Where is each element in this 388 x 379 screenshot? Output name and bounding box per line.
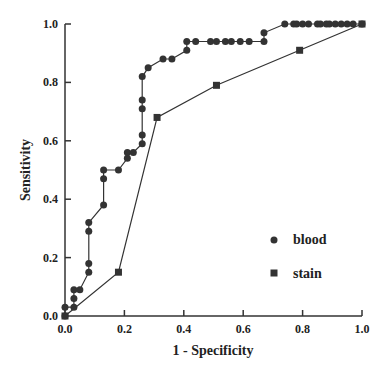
data-point-circle <box>139 73 146 80</box>
x-tick-label: 0.6 <box>236 322 251 336</box>
x-ticks: 0.00.20.40.60.81.0 <box>58 310 370 336</box>
data-point-circle <box>260 29 267 36</box>
data-point-circle <box>139 96 146 103</box>
y-tick-label: 1.0 <box>43 17 58 31</box>
y-tick-label: 0.0 <box>43 309 58 323</box>
y-tick-label: 0.8 <box>43 75 58 89</box>
data-point-circle <box>100 175 107 182</box>
legend-stain-label: stain <box>293 266 322 281</box>
x-tick-label: 1.0 <box>355 322 370 336</box>
data-point-circle <box>160 56 167 63</box>
roc-chart: 0.00.20.40.60.81.0 0.00.20.40.60.81.0 1 … <box>0 0 388 379</box>
y-tick-label: 0.6 <box>43 134 58 148</box>
data-point-square <box>213 82 220 89</box>
data-point-circle <box>305 21 312 28</box>
data-point-circle <box>115 167 122 174</box>
data-point-circle <box>183 38 190 45</box>
data-point-circle <box>85 260 92 267</box>
legend-stain-marker-icon <box>271 270 278 277</box>
data-point-circle <box>228 38 235 45</box>
data-point-circle <box>246 38 253 45</box>
data-point-square <box>62 313 69 320</box>
data-point-circle <box>183 47 190 54</box>
axes: 0.00.20.40.60.81.0 0.00.20.40.60.81.0 <box>43 17 370 336</box>
data-point-square <box>359 21 366 28</box>
data-point-circle <box>85 228 92 235</box>
x-tick-label: 0.2 <box>117 322 132 336</box>
data-point-circle <box>62 304 69 311</box>
x-tick-label: 0.0 <box>58 322 73 336</box>
data-point-square <box>154 114 161 121</box>
y-axis-title: Sensitivity <box>18 139 33 201</box>
data-point-circle <box>130 149 137 156</box>
data-point-square <box>115 269 122 276</box>
x-axis-title: 1 - Specificity <box>173 343 254 358</box>
y-tick-label: 0.2 <box>43 251 58 265</box>
data-point-circle <box>192 38 199 45</box>
data-point-circle <box>85 219 92 226</box>
x-tick-label: 0.4 <box>176 322 191 336</box>
y-tick-label: 0.4 <box>43 192 58 206</box>
data-point-circle <box>237 38 244 45</box>
data-point-circle <box>281 21 288 28</box>
data-point-square <box>296 47 303 54</box>
data-point-circle <box>139 140 146 147</box>
data-point-circle <box>100 202 107 209</box>
data-point-circle <box>168 56 175 63</box>
legend: blood stain <box>271 232 327 281</box>
data-point-circle <box>260 38 267 45</box>
data-point-circle <box>139 131 146 138</box>
legend-blood-marker-icon <box>271 237 278 244</box>
y-ticks: 0.00.20.40.60.81.0 <box>43 17 71 323</box>
data-point-circle <box>100 167 107 174</box>
data-point-circle <box>85 269 92 276</box>
x-tick-label: 0.8 <box>295 322 310 336</box>
legend-blood-label: blood <box>293 232 327 247</box>
data-point-circle <box>145 64 152 71</box>
data-point-circle <box>213 38 220 45</box>
data-point-circle <box>139 105 146 112</box>
data-point-circle <box>70 295 77 302</box>
data-point-circle <box>76 286 83 293</box>
